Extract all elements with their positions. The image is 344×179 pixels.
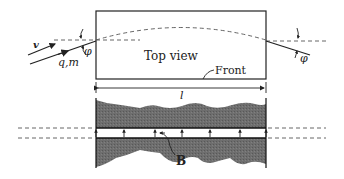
angle-in-label: φ — [84, 45, 92, 58]
trajectory-curve — [96, 28, 266, 41]
trajectory-arrow — [58, 51, 68, 55]
front-label: Front — [215, 64, 247, 77]
upper-pole-piece — [96, 100, 266, 128]
velocity-label: v — [33, 39, 39, 50]
magnet-diagram: v q,m φ φ Top view Front l B — [0, 0, 344, 179]
charge-mass-label: q,m — [58, 56, 79, 69]
field-label: B — [176, 154, 186, 168]
top-view-label: Top view — [144, 49, 199, 63]
angle-arc-out-bottom — [295, 51, 297, 58]
length-label: l — [180, 89, 184, 102]
angle-out-label: φ — [300, 52, 308, 65]
front-leader-line — [203, 70, 214, 79]
angle-arc-out-top — [297, 28, 298, 38]
field-arrows — [96, 130, 266, 137]
angle-arc-in-top — [81, 29, 83, 38]
